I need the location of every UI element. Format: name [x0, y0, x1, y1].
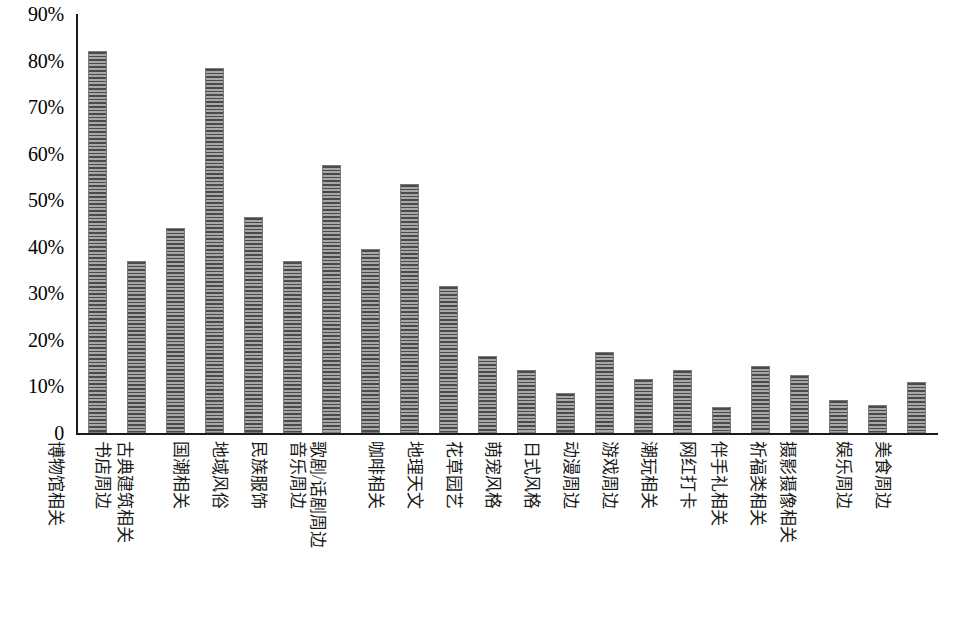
bar-slot: [117, 14, 156, 433]
bar-slot: [663, 14, 702, 433]
bar-slot: [351, 14, 390, 433]
x-axis-tick-label: 花草园艺: [444, 441, 463, 509]
x-axis-tick-label: 古典建筑相关: [115, 441, 134, 543]
bar[interactable]: [322, 165, 341, 433]
bar-slot: [273, 14, 312, 433]
bar[interactable]: [166, 228, 185, 433]
x-axis-tick-label: 国潮相关: [171, 441, 190, 509]
bar-slot: [195, 14, 234, 433]
y-axis-tick-label: 70%: [28, 96, 64, 119]
y-axis-tick-label: 20%: [28, 328, 64, 351]
x-axis-tick-label: 伴手礼相关: [708, 441, 727, 526]
x-axis-tick-label: 萌宠风格: [483, 441, 502, 509]
bar[interactable]: [88, 51, 107, 433]
bar[interactable]: [751, 366, 770, 434]
bar-slot: [858, 14, 897, 433]
bar-slot: [78, 14, 117, 433]
x-axis-tick-label: 民族服饰: [249, 441, 268, 509]
plot-area: [78, 14, 938, 433]
bar-slot: [312, 14, 351, 433]
x-axis-tick-label: 博物馆相关: [45, 441, 64, 526]
bar[interactable]: [361, 249, 380, 433]
bar[interactable]: [556, 393, 575, 433]
bar-slot: [702, 14, 741, 433]
x-axis-tick-label: 咖啡相关: [366, 441, 385, 509]
bar[interactable]: [283, 261, 302, 433]
bar-slot: [546, 14, 585, 433]
x-axis-tick-label: 游戏周边: [600, 441, 619, 509]
x-axis-tick-label: 摄影摄像相关: [778, 441, 797, 543]
bar-slot: [819, 14, 858, 433]
bar-slot: [897, 14, 936, 433]
y-axis-tick-label: 90%: [28, 3, 64, 26]
bar-slot: [156, 14, 195, 433]
bar[interactable]: [907, 382, 926, 433]
bar[interactable]: [829, 400, 848, 433]
y-axis-tick-label: 40%: [28, 235, 64, 258]
y-axis-tick-label: 60%: [28, 142, 64, 165]
bar[interactable]: [439, 286, 458, 433]
bar[interactable]: [478, 356, 497, 433]
bar-slot: [585, 14, 624, 433]
bar-slot: [429, 14, 468, 433]
bar-slot: [507, 14, 546, 433]
bar-slot: [741, 14, 780, 433]
bar[interactable]: [634, 379, 653, 433]
bar[interactable]: [595, 352, 614, 433]
bar[interactable]: [205, 68, 224, 433]
x-axis-tick-label: 地域风俗: [210, 441, 229, 509]
x-axis-tick-label: 歌剧/话剧周边: [307, 441, 326, 548]
x-axis-label-slot: 美食周边: [897, 437, 936, 625]
bar-slot: [468, 14, 507, 433]
y-axis-tick-label: 10%: [28, 375, 64, 398]
x-axis-tick-label: 音乐周边: [288, 441, 307, 509]
x-axis-tick-label: 娱乐周边: [834, 441, 853, 509]
y-axis-tick-label: 50%: [28, 189, 64, 212]
y-axis: 90%80%70%60%50%40%30%20%10%0: [0, 0, 72, 440]
bar[interactable]: [400, 184, 419, 433]
x-axis-tick-label: 动漫周边: [561, 441, 580, 509]
bar[interactable]: [673, 370, 692, 433]
y-axis-tick-label: 80%: [28, 49, 64, 72]
bar-slot: [390, 14, 429, 433]
bar-slot: [780, 14, 819, 433]
x-axis-tick-label: 美食周边: [873, 441, 892, 509]
x-axis-tick-label: 书店周边: [93, 441, 112, 509]
bar[interactable]: [790, 375, 809, 433]
x-axis: 博物馆相关书店周边古典建筑相关国潮相关地域风俗民族服饰音乐周边歌剧/话剧周边咖啡…: [78, 437, 938, 625]
bar[interactable]: [127, 261, 146, 433]
bar-slot: [624, 14, 663, 433]
x-axis-tick-label: 日式风格: [522, 441, 541, 509]
bar[interactable]: [244, 217, 263, 433]
bar[interactable]: [517, 370, 536, 433]
y-axis-tick-label: 30%: [28, 282, 64, 305]
bar[interactable]: [712, 407, 731, 433]
x-axis-tick-label: 地理天文: [405, 441, 424, 509]
x-axis-line: [76, 433, 938, 435]
x-axis-tick-label: 网红打卡: [678, 441, 697, 509]
x-axis-tick-label: 祈福类相关: [747, 441, 766, 526]
bar[interactable]: [868, 405, 887, 433]
bar-slot: [234, 14, 273, 433]
x-axis-tick-label: 潮玩相关: [639, 441, 658, 509]
bar-chart: 90%80%70%60%50%40%30%20%10%0 博物馆相关书店周边古典…: [0, 0, 955, 625]
